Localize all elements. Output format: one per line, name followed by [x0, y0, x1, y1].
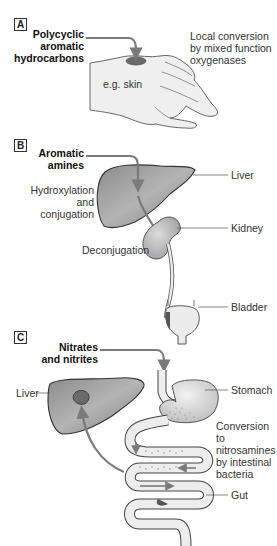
bladder-lesion	[166, 312, 170, 330]
organ-label-stomach: Stomach	[231, 384, 272, 396]
process-label-deconjugation: Deconjugation	[82, 244, 149, 256]
mechanism-line: bacteria	[216, 468, 277, 480]
hand-illustration	[90, 55, 218, 128]
mechanism-line: Local conversion	[190, 30, 272, 42]
mechanism-line: by mixed function	[190, 42, 272, 54]
mechanism-line: by intestinal	[216, 456, 277, 468]
mechanism-label-c: Conversion to nitrosamines by intestinal…	[216, 420, 277, 480]
mechanism-line: nitrosamines	[216, 444, 277, 456]
arrow-pah-to-skin	[86, 38, 136, 54]
organ-label-kidney: Kidney	[231, 222, 263, 234]
liver-illustration-b	[97, 165, 195, 228]
process-line: Hydroxylation	[20, 184, 94, 196]
process-line: and conjugation	[20, 196, 94, 220]
organ-label-liver-c: Liver	[16, 387, 39, 399]
liver-illustration-c	[48, 378, 144, 434]
agent-line: Aromatic	[0, 147, 84, 159]
process-label-hydroxylation: Hydroxylation and conjugation	[20, 184, 94, 220]
organ-label-gut: Gut	[231, 489, 248, 501]
agent-line: hydrocarbons	[0, 52, 84, 64]
agent-label-pah: Polycyclic aromatic hydrocarbons	[0, 28, 84, 64]
agent-line: aromatic	[0, 40, 84, 52]
agent-label-amines: Aromatic amines	[0, 147, 84, 171]
liver-lesion	[73, 390, 89, 404]
mechanism-label-a: Local conversion by mixed function oxyge…	[190, 30, 272, 66]
organ-label-bladder: Bladder	[231, 301, 267, 313]
site-label-skin: e.g. skin	[103, 78, 142, 90]
mechanism-line: oxygenases	[190, 54, 272, 66]
gut-illustration	[130, 420, 209, 546]
arrow-nitrates-to-stomach	[100, 350, 164, 366]
agent-line: Nitrates	[10, 341, 98, 353]
agent-label-nitrates: Nitrates and nitrites	[10, 341, 98, 365]
agent-line: and nitrites	[10, 353, 98, 365]
stomach-illustration	[160, 380, 219, 423]
agent-line: Polycyclic	[0, 28, 84, 40]
mechanism-line: Conversion to	[216, 420, 277, 444]
skin-lesion	[126, 57, 146, 65]
organ-label-liver-b: Liver	[231, 169, 254, 181]
bladder-illustration	[166, 300, 200, 344]
agent-line: amines	[0, 159, 84, 171]
